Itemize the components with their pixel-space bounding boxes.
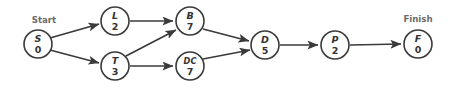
- edge-dc-to-d[interactable]: [203, 50, 250, 59]
- node-p-duration: 2: [332, 45, 339, 56]
- node-l[interactable]: L 2: [101, 7, 129, 35]
- edge-p-to-f[interactable]: [350, 44, 401, 45]
- network-diagram-canvas: Start Finish S 0 L 2 T 3 B 7 DC 7: [0, 0, 454, 88]
- node-f[interactable]: F 0: [404, 30, 432, 58]
- start-caption: Start: [32, 15, 56, 25]
- node-t-duration: 3: [112, 66, 119, 77]
- edge-s-to-l[interactable]: [50, 24, 99, 38]
- node-dc[interactable]: DC 7: [176, 52, 204, 80]
- edge-s-to-t[interactable]: [50, 50, 99, 63]
- node-p-label: P: [332, 34, 339, 45]
- node-d-duration: 5: [262, 45, 269, 56]
- node-f-duration: 0: [415, 44, 422, 55]
- node-s[interactable]: S 0: [24, 30, 52, 58]
- node-l-label: L: [112, 10, 118, 21]
- edge-b-to-d[interactable]: [203, 29, 249, 41]
- node-b[interactable]: B 7: [176, 7, 204, 35]
- edge-t-to-b[interactable]: [126, 30, 176, 56]
- finish-caption: Finish: [403, 14, 432, 24]
- node-s-label: S: [35, 33, 42, 44]
- node-t[interactable]: T 3: [101, 52, 129, 80]
- node-b-duration: 7: [187, 21, 194, 32]
- node-d[interactable]: D 5: [251, 31, 279, 59]
- node-dc-duration: 7: [187, 66, 194, 77]
- node-d-label: D: [261, 34, 269, 45]
- node-p[interactable]: P 2: [321, 31, 349, 59]
- node-l-duration: 2: [112, 21, 119, 32]
- network-diagram: Start Finish S 0 L 2 T 3 B 7 DC 7: [0, 0, 454, 88]
- node-f-label: F: [415, 33, 422, 44]
- node-s-duration: 0: [35, 44, 42, 55]
- node-b-label: B: [186, 10, 193, 21]
- node-dc-label: DC: [184, 56, 197, 66]
